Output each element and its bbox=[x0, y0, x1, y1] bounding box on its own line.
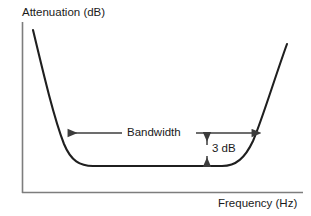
three-db-label: 3 dB bbox=[212, 143, 236, 155]
diagram-canvas bbox=[0, 0, 311, 216]
filter-bandwidth-diagram: Attenuation (dB) Frequency (Hz) Bandwidt… bbox=[0, 0, 311, 216]
y-axis-label: Attenuation (dB) bbox=[22, 7, 105, 19]
attenuation-curve bbox=[33, 30, 287, 166]
response-curve-group bbox=[33, 30, 287, 166]
axes-group bbox=[22, 22, 303, 193]
x-axis-label: Frequency (Hz) bbox=[218, 198, 297, 210]
bandwidth-label: Bandwidth bbox=[127, 127, 181, 139]
